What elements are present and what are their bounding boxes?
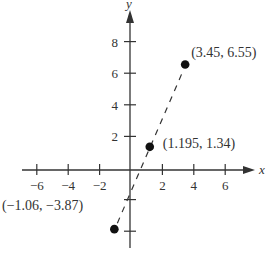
x-tick-label: 6 <box>222 178 229 193</box>
x-tick-label: 4 <box>191 178 198 193</box>
chart-figure: xy−6−4−22462468(−1.06, −3.87)(1.195, 1.3… <box>0 0 277 267</box>
x-tick-label: −4 <box>61 178 75 193</box>
x-axis-label: x <box>258 162 265 177</box>
x-tick-label: 2 <box>159 178 166 193</box>
y-tick-label: 6 <box>112 66 119 81</box>
y-tick-label: 8 <box>112 35 119 50</box>
data-point <box>145 143 154 152</box>
x-tick-label: −6 <box>30 178 44 193</box>
data-point-label: (1.195, 1.34) <box>163 136 236 152</box>
y-axis-label: y <box>124 0 132 11</box>
y-tick-label: 4 <box>112 98 119 113</box>
data-point-label: (3.45, 6.55) <box>191 45 257 61</box>
y-tick-label: 2 <box>112 129 119 144</box>
plot-area: xy−6−4−22462468(−1.06, −3.87)(1.195, 1.3… <box>0 0 277 267</box>
data-point <box>110 225 119 234</box>
y-axis-arrow-icon <box>126 10 134 23</box>
x-axis-arrow-icon <box>243 166 255 174</box>
x-tick-label: −2 <box>93 178 107 193</box>
data-point-label: (−1.06, −3.87) <box>2 198 83 214</box>
data-point <box>181 60 190 69</box>
